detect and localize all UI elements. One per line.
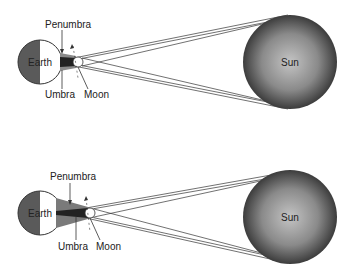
top-diagram: Sun Earth Penumbra Umbra Moon [18, 15, 337, 109]
moon-label: Moon [84, 89, 109, 100]
bottom-diagram: Sun Earth Penumbra Umbra Moon [18, 170, 337, 264]
orbit-arrow-icon [70, 44, 74, 49]
penumbra-label: Penumbra [45, 19, 92, 30]
eclipse-diagram: Sun Earth Penumbra Umbra Moon [0, 0, 360, 277]
orbit-arrow-icon [84, 196, 88, 201]
moon-label: Moon [96, 241, 121, 252]
penumbra-label: Penumbra [50, 171, 97, 182]
sun-label: Sun [281, 57, 299, 68]
moon [73, 57, 83, 67]
sun-label: Sun [281, 212, 299, 223]
umbra-label: Umbra [45, 89, 75, 100]
earth-label: Earth [28, 57, 52, 68]
moon [85, 208, 95, 218]
earth-label: Earth [28, 208, 52, 219]
umbra-label: Umbra [58, 241, 88, 252]
